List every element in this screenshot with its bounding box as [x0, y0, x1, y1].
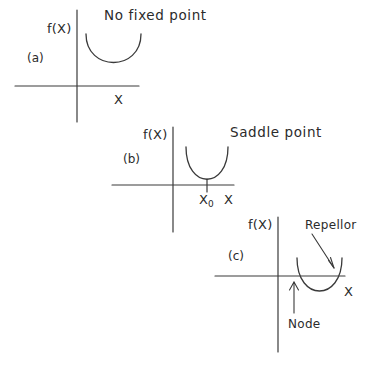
panel-c-axes	[215, 217, 345, 352]
repellor-arrow	[312, 234, 334, 268]
panel-b-axes	[112, 127, 234, 232]
node-annotation-label: Node	[288, 318, 321, 330]
repellor-annotation-label: Repellor	[305, 219, 357, 231]
panel-c-curve	[297, 258, 342, 291]
panel-a-x-axis-label: X	[114, 93, 123, 106]
panel-a-curve	[86, 34, 141, 63]
panel-c-label: (c)	[228, 250, 244, 262]
panel-b-x0-label: X0	[199, 193, 214, 206]
figure-vector-layer	[0, 0, 369, 366]
panel-b-caption: Saddle point	[230, 126, 322, 140]
panel-a-caption: No fixed point	[104, 9, 207, 23]
panel-b-x0-subscript: 0	[208, 199, 214, 209]
panel-b-x0-base: X	[199, 192, 208, 207]
panel-c-x-axis-label: X	[344, 285, 353, 298]
panel-b-label: (b)	[123, 153, 140, 165]
panel-c-y-axis-label: f(X)	[248, 218, 272, 231]
node-arrow	[290, 282, 299, 313]
panel-a-y-axis-label: f(X)	[47, 22, 71, 35]
panel-b-curve	[186, 147, 228, 179]
panel-b-x-axis-label: X	[224, 193, 233, 206]
panel-a-label: (a)	[27, 52, 44, 64]
panel-b-y-axis-label: f(X)	[143, 128, 167, 141]
fixed-point-diagram-figure: f(X) (a) No fixed point X f(X) (b) Saddl…	[0, 0, 369, 366]
